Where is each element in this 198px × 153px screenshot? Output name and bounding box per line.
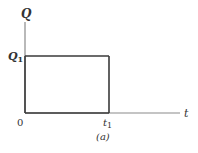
x-axis-label: t xyxy=(184,107,189,120)
y-axis-label: Q xyxy=(21,7,32,21)
y-tick-label-q1: Q1 xyxy=(8,50,23,64)
origin-label: 0 xyxy=(17,117,23,128)
rectangular-pulse-diagram: Q Q1 0 t1 t (a) xyxy=(0,0,198,153)
figure-caption: (a) xyxy=(96,131,110,142)
x-tick-label-t1: t1 xyxy=(103,117,112,130)
